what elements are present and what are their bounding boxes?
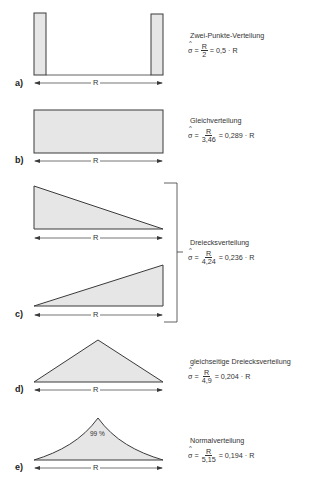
sigma-hat-symbol: ^σ [188, 46, 192, 55]
range-label-c-top: R [91, 234, 100, 242]
formula-b: ^σ = R3,46 = 0,289 · R [188, 128, 254, 143]
formula-d: ^σ = R4,9 = 0,204 · R [188, 369, 250, 384]
range-label-a: R [91, 79, 100, 87]
formula-c: ^σ = R4,24 = 0,236 · R [188, 250, 254, 265]
triangle-descending-shape [34, 186, 163, 229]
formula-a: ^σ = R2 = 0,5 · R [188, 43, 238, 58]
bracket-c [164, 183, 183, 322]
fraction: R4,24 [201, 250, 217, 265]
title-e: Normalverteilung [190, 436, 244, 445]
range-label-e: R [91, 464, 100, 472]
range-label-c-bottom: R [91, 311, 100, 319]
triangle-ascending-shape [34, 265, 163, 306]
sigma-hat-symbol: ^σ [188, 131, 192, 140]
normal-distribution-shape [34, 418, 163, 460]
panel-label-e: e) [15, 462, 23, 472]
title-a: Zwei-Punkte-Verteilung [190, 31, 264, 40]
panel-label-d: d) [15, 384, 24, 394]
title-c: Dreiecksverteilung [190, 238, 249, 247]
fraction: R3,46 [201, 128, 217, 143]
panel-label-b: b) [15, 155, 24, 165]
panel-label-c: c) [15, 309, 23, 319]
sigma-hat-symbol: ^σ [188, 372, 192, 381]
range-label-d: R [91, 386, 100, 394]
fraction: R4,9 [201, 369, 213, 384]
isosceles-triangle-shape [34, 340, 163, 382]
sigma-hat-symbol: ^σ [188, 253, 192, 262]
title-b: Gleichverteilung [190, 116, 242, 125]
uniform-distribution-shape [34, 110, 163, 153]
title-d: gleichseitige Dreiecksverteilung [190, 357, 291, 366]
range-label-b: R [91, 157, 100, 165]
coverage-label: 99 % [90, 430, 105, 437]
two-point-distribution-shape [34, 13, 163, 75]
formula-e: ^σ = R5,15 = 0,194 · R [188, 448, 254, 463]
fraction: R2 [201, 43, 208, 58]
distribution-figure [0, 0, 311, 482]
panel-label-a: a) [15, 78, 23, 88]
sigma-hat-symbol: ^σ [188, 451, 192, 460]
fraction: R5,15 [201, 448, 217, 463]
